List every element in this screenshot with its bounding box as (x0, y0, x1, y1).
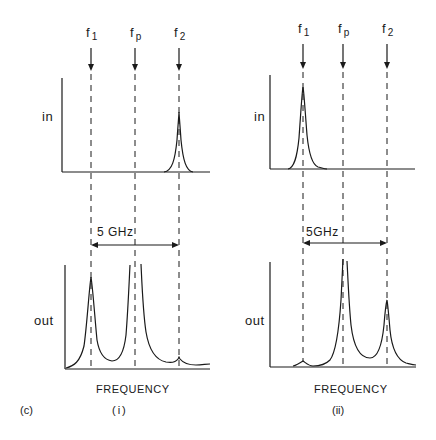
guide-lines-ii (303, 72, 387, 367)
marker-arrows-i (91, 48, 179, 66)
output-label-i: out (34, 314, 54, 327)
figure-canvas: f1 fp f2 in 5 GHz out FREQUENCY (i) (c) … (0, 0, 436, 440)
input-label-ii: in (254, 110, 265, 123)
diagram-graphics (0, 0, 436, 440)
input-label-i: in (42, 110, 53, 123)
output-label-ii: out (245, 314, 265, 327)
spacing-label-ii: 5GHz (306, 226, 339, 238)
marker-f1-label-ii: f1 (298, 22, 309, 38)
marker-f2-label-i: f2 (174, 26, 185, 42)
panel-tag: (c) (20, 405, 33, 416)
caption-i: (i) (112, 405, 128, 416)
guide-lines-i (91, 74, 179, 369)
output-spectrum-i (66, 265, 130, 368)
marker-arrows-ii (303, 44, 387, 64)
panel-ii-graphics (270, 44, 416, 367)
input-spectrum-ii (288, 87, 327, 169)
marker-f1-label-i: f1 (86, 26, 97, 42)
marker-f2-label-ii: f2 (382, 22, 393, 38)
caption-ii: (ii) (332, 405, 344, 416)
xlabel-i: FREQUENCY (96, 384, 170, 395)
marker-fp-label-i: fp (130, 26, 141, 42)
spacing-label-i: 5 GHz (97, 226, 134, 238)
xlabel-ii: FREQUENCY (314, 384, 388, 395)
input-axes-i (62, 78, 210, 172)
marker-fp-label-ii: fp (338, 22, 349, 38)
panel-i-graphics (62, 48, 210, 369)
output-spectrum-ii (293, 259, 343, 366)
